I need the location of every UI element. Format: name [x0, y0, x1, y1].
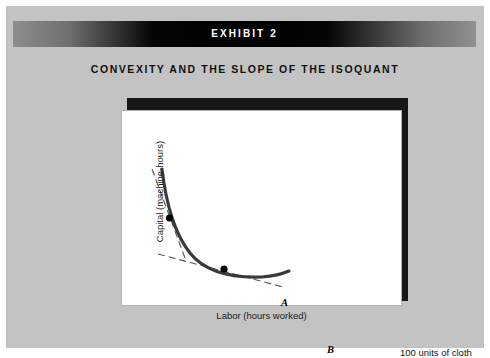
point-a-label: A	[281, 297, 288, 308]
isoquant-figure: A B 100 units of cloth Capital (machine-…	[115, 98, 407, 313]
isoquant-curve	[162, 169, 289, 277]
y-axis-title: Capital (machine-hours)	[154, 117, 165, 267]
data-point-a	[166, 214, 173, 221]
tangent-line-at-b	[158, 254, 283, 287]
exhibit-banner-label: EXHIBIT 2	[13, 28, 476, 39]
exhibit-page: EXHIBIT 2 CONVEXITY AND THE SLOPE OF THE…	[6, 6, 484, 348]
exhibit-title: CONVEXITY AND THE SLOPE OF THE ISOQUANT	[6, 63, 484, 75]
isoquant-annotation-label: 100 units of cloth	[400, 347, 472, 358]
exhibit-banner: EXHIBIT 2	[13, 21, 476, 47]
x-axis-title: Labor (hours worked)	[121, 310, 402, 321]
point-b-label: B	[327, 344, 334, 355]
data-point-b	[220, 265, 227, 272]
